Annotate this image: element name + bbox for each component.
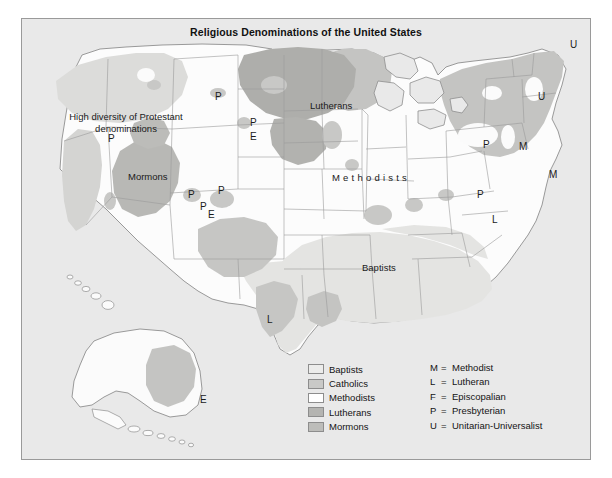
abbrev-equals-2: = xyxy=(441,391,452,402)
abbrev-key-m: M xyxy=(430,362,441,373)
legend-label-methodists: Methodists xyxy=(329,392,375,403)
legend-label-baptists: Baptists xyxy=(329,364,363,375)
legend-abbreviation-column: M = Methodist L = Lutheran F = Episcopal… xyxy=(430,362,542,434)
legend-label-mormons: Mormons xyxy=(329,421,369,432)
abbrev-item-presbyterian: P = Presbyterian xyxy=(430,405,542,419)
abbrev-equals-3: = xyxy=(441,405,452,416)
abbrev-meaning-presbyterian: Presbyterian xyxy=(452,405,505,416)
catholics-louisiana xyxy=(306,291,342,327)
abbrev-item-episcopalian: F = Episcopalian xyxy=(430,391,542,405)
legend-swatch-methodists xyxy=(308,393,324,403)
abbrev-item-methodist: M = Methodist xyxy=(430,362,542,376)
catholics-california xyxy=(62,129,102,231)
alaska xyxy=(72,329,202,447)
baptists-region xyxy=(266,232,492,353)
abbrev-key-f: F xyxy=(430,391,441,402)
map-frame: Religious Denominations of the United St… xyxy=(21,18,591,460)
legend-label-lutherans: Lutherans xyxy=(329,407,371,418)
map-figure: Religious Denominations of the United St… xyxy=(0,0,612,478)
legend-label-catholics: Catholics xyxy=(329,378,368,389)
abbrev-equals-1: = xyxy=(441,376,452,387)
abbrev-item-lutheran: L = Lutheran xyxy=(430,376,542,390)
legend-swatch-lutherans xyxy=(308,407,324,417)
abbrev-meaning-unitarian: Unitarian-Universalist xyxy=(452,420,542,431)
legend-swatch-mormons xyxy=(308,422,324,432)
legend-item-lutherans: Lutherans xyxy=(308,405,375,419)
abbrev-item-unitarian: U = Unitarian-Universalist xyxy=(430,420,542,434)
legend-item-catholics: Catholics xyxy=(308,376,375,390)
abbrev-key-u: U xyxy=(430,420,441,431)
abbrev-equals-4: = xyxy=(441,420,452,431)
legend-item-mormons: Mormons xyxy=(308,420,375,434)
hawaii xyxy=(67,275,114,309)
abbrev-key-p: P xyxy=(430,405,441,416)
abbrev-equals-0: = xyxy=(441,362,452,373)
legend-swatch-catholics xyxy=(308,379,324,389)
abbrev-meaning-methodist: Methodist xyxy=(452,362,493,373)
map-legend: Baptists Catholics Methodists Lutherans … xyxy=(308,362,570,444)
legend-swatch-column: Baptists Catholics Methodists Lutherans … xyxy=(308,362,375,434)
abbrev-meaning-lutheran: Lutheran xyxy=(452,376,490,387)
abbrev-key-l: L xyxy=(430,376,441,387)
abbrev-meaning-episcopalian: Episcopalian xyxy=(452,391,506,402)
legend-item-baptists: Baptists xyxy=(308,362,375,376)
legend-swatch-baptists xyxy=(308,364,324,374)
legend-item-methodists: Methodists xyxy=(308,391,375,405)
